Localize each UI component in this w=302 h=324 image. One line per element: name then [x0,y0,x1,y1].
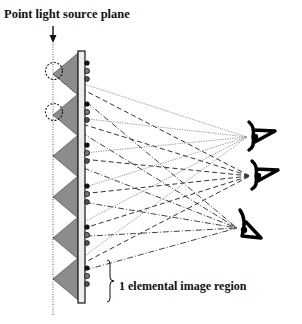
diagram-canvas: Point light source plane 1 elemental ima… [0,0,302,324]
pixel-dot [84,191,89,196]
eye-icon [240,210,261,238]
pixel-dot [85,241,90,246]
integral-imaging-diagram [0,0,302,324]
pixel-dot [84,60,89,65]
eye-pupil [252,134,258,140]
pixel-dot [84,142,89,147]
pixel-dot [84,150,89,155]
eye-icon [249,122,275,150]
pixel-dot [84,68,89,73]
pixel-dot [84,183,89,188]
pixel-dot [84,101,89,106]
pixel-dot [85,200,90,205]
pixel-dot [84,224,89,229]
pixel-dot [85,282,90,287]
pixel-dot [84,232,89,237]
pixel-dot [84,265,89,270]
prism-element [53,258,78,300]
eye-outline [240,210,261,238]
pixel-dot [85,159,90,164]
prism-element [53,94,78,136]
prism-element [53,217,78,259]
eye-icon [252,161,278,189]
eye-pupil [255,173,261,179]
prism-element [53,135,78,177]
pixel-dot [84,109,89,114]
display-plate [78,51,85,303]
arrow-down-icon [50,35,57,43]
pixel-dot [85,118,90,123]
eye-pupil [241,227,247,233]
prism-element [53,176,78,218]
prism-element [53,53,78,95]
pixel-dot [85,77,90,82]
elemental-image-region-label: 1 elemental image region [119,279,246,294]
region-brace [107,260,114,302]
pixel-dot [84,273,89,278]
point-light-source-plane-label: Point light source plane [4,7,130,22]
